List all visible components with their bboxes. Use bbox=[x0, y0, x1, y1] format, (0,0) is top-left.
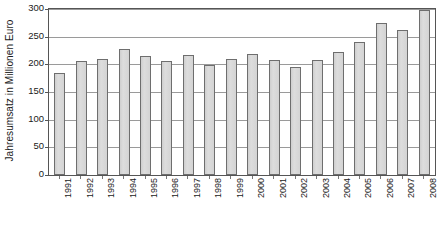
y-tick-label: 0 bbox=[18, 169, 44, 179]
x-tick-label: 2006 bbox=[385, 178, 396, 218]
bar bbox=[290, 67, 301, 175]
x-tick-mark bbox=[338, 176, 339, 179]
y-axis-tick-labels: 050100150200250300 bbox=[18, 0, 44, 180]
x-tick-label: 1997 bbox=[192, 178, 203, 218]
x-tick-label: 1993 bbox=[106, 178, 117, 218]
x-tick-label: 2000 bbox=[256, 178, 267, 218]
bar bbox=[76, 61, 87, 175]
y-tick-label: 50 bbox=[18, 142, 44, 152]
x-tick-label: 1999 bbox=[235, 178, 246, 218]
bar bbox=[226, 59, 237, 175]
x-tick-label: 2008 bbox=[428, 178, 439, 218]
bar bbox=[269, 60, 280, 175]
bar bbox=[312, 60, 323, 175]
x-tick-label: 1995 bbox=[149, 178, 160, 218]
y-tick-label: 200 bbox=[18, 59, 44, 69]
x-tick-mark bbox=[252, 176, 253, 179]
bar bbox=[97, 59, 108, 175]
y-tick-label: 100 bbox=[18, 114, 44, 124]
y-axis-title: Jahresumsatz in Millionen Euro bbox=[0, 0, 20, 180]
x-tick-label: 1996 bbox=[170, 178, 181, 218]
bar-chart-figure: Jahresumsatz in Millionen Euro 050100150… bbox=[0, 0, 442, 227]
x-tick-mark bbox=[59, 176, 60, 179]
bar bbox=[54, 73, 65, 175]
bar bbox=[140, 56, 151, 175]
x-tick-mark bbox=[402, 176, 403, 179]
x-tick-mark bbox=[102, 176, 103, 179]
x-tick-mark bbox=[423, 176, 424, 179]
x-axis-tick-labels: 1991199219931994199519961997199819992000… bbox=[48, 176, 434, 226]
y-axis-title-text: Jahresumsatz in Millionen Euro bbox=[5, 19, 16, 161]
y-tick-label: 300 bbox=[18, 3, 44, 13]
x-tick-mark bbox=[380, 176, 381, 179]
bar bbox=[161, 61, 172, 175]
bar bbox=[354, 42, 365, 175]
bar bbox=[204, 65, 215, 175]
x-tick-mark bbox=[80, 176, 81, 179]
x-tick-mark bbox=[230, 176, 231, 179]
x-tick-mark bbox=[166, 176, 167, 179]
bar bbox=[333, 52, 344, 175]
x-tick-label: 1991 bbox=[63, 178, 74, 218]
x-tick-label: 1994 bbox=[128, 178, 139, 218]
x-tick-label: 2001 bbox=[278, 178, 289, 218]
x-tick-label: 2005 bbox=[363, 178, 374, 218]
bars-layer bbox=[49, 9, 435, 175]
x-tick-mark bbox=[187, 176, 188, 179]
plot-area bbox=[48, 8, 436, 176]
bar bbox=[119, 49, 130, 175]
bar bbox=[247, 54, 258, 175]
x-tick-label: 2004 bbox=[342, 178, 353, 218]
x-tick-label: 1998 bbox=[213, 178, 224, 218]
x-tick-label: 2007 bbox=[406, 178, 417, 218]
x-tick-mark bbox=[295, 176, 296, 179]
x-tick-label: 2002 bbox=[299, 178, 310, 218]
x-tick-mark bbox=[145, 176, 146, 179]
bar bbox=[376, 23, 387, 175]
x-tick-mark bbox=[359, 176, 360, 179]
bar bbox=[397, 30, 408, 175]
x-tick-mark bbox=[316, 176, 317, 179]
x-tick-mark bbox=[209, 176, 210, 179]
bar bbox=[183, 55, 194, 175]
bar bbox=[419, 10, 430, 175]
x-tick-label: 1992 bbox=[85, 178, 96, 218]
y-tick-label: 150 bbox=[18, 86, 44, 96]
x-tick-label: 2003 bbox=[321, 178, 332, 218]
y-tick-label: 250 bbox=[18, 31, 44, 41]
x-tick-mark bbox=[273, 176, 274, 179]
x-tick-mark bbox=[123, 176, 124, 179]
